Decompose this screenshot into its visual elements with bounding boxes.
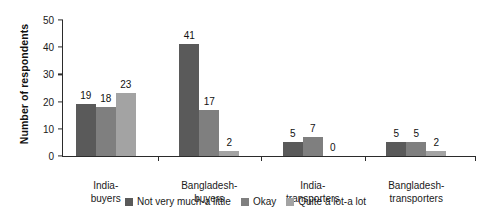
- bar[interactable]: [76, 104, 96, 156]
- bar[interactable]: [386, 142, 406, 156]
- bar-value-label: 41: [176, 30, 202, 41]
- chart-legend: Not very much-a littleOkayQuite a lot-a …: [0, 196, 491, 207]
- x-tick-mark: [158, 156, 159, 161]
- x-tick-mark: [365, 156, 366, 161]
- y-tick-label: 30: [24, 69, 54, 80]
- legend-label: Okay: [253, 196, 276, 207]
- y-tick-mark: [58, 155, 63, 156]
- y-tick-mark: [58, 47, 63, 48]
- bar[interactable]: [219, 151, 239, 156]
- y-tick-label: 40: [24, 42, 54, 53]
- y-tick-mark: [58, 128, 63, 129]
- y-tick-mark: [58, 101, 63, 102]
- category-label-line1: Bangladesh-: [351, 180, 481, 193]
- bar[interactable]: [96, 107, 116, 156]
- legend-label: Quite a lot-a lot: [298, 196, 366, 207]
- bar[interactable]: [283, 142, 303, 156]
- bar-value-label: 18: [93, 93, 119, 104]
- legend-label: Not very much-a little: [137, 196, 231, 207]
- bar-value-label: 23: [113, 79, 139, 90]
- plot-area: 01020304050 19182341172570552 India-buye…: [62, 20, 476, 156]
- bar[interactable]: [116, 93, 136, 156]
- bar-value-label: 2: [216, 137, 242, 148]
- bar-chart: Number of respondents 01020304050 191823…: [0, 0, 491, 219]
- x-tick-mark: [261, 156, 262, 161]
- legend-item[interactable]: Not very much-a little: [125, 196, 231, 207]
- x-tick-mark: [475, 156, 476, 161]
- bar[interactable]: [426, 151, 446, 156]
- y-tick-label: 10: [24, 123, 54, 134]
- y-tick-label: 50: [24, 15, 54, 26]
- legend-item[interactable]: Quite a lot-a lot: [286, 196, 366, 207]
- bar[interactable]: [199, 110, 219, 156]
- y-tick-mark: [58, 19, 63, 20]
- x-axis-line: [62, 156, 476, 157]
- y-axis-line: [62, 20, 63, 156]
- bar-value-label: 2: [423, 137, 449, 148]
- y-tick-label: 0: [24, 151, 54, 162]
- y-tick-mark: [58, 74, 63, 75]
- legend-swatch-icon: [125, 198, 133, 206]
- legend-swatch-icon: [241, 198, 249, 206]
- legend-swatch-icon: [286, 198, 294, 206]
- bar-value-label: 0: [320, 142, 346, 153]
- bar-value-label: 7: [300, 123, 326, 134]
- legend-item[interactable]: Okay: [241, 196, 276, 207]
- y-tick-label: 20: [24, 96, 54, 107]
- bar-value-label: 17: [196, 96, 222, 107]
